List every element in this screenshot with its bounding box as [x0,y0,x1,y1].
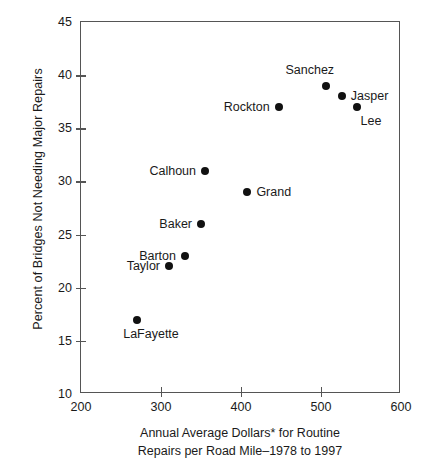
data-point [243,188,251,196]
data-point [353,103,361,111]
data-point [133,316,141,324]
x-tick-label: 500 [311,400,332,414]
scatter-plot-figure: Percent of Bridges Not Needing Major Rep… [0,0,424,475]
data-point [197,220,205,228]
y-tick-mark [76,288,86,289]
x-axis-title-line-1: Annual Average Dollars* for Routine [80,424,400,442]
y-tick-label: 10 [58,387,72,401]
plot-area: 1015202530354045 200300400500600 LaFayet… [80,21,400,393]
y-tick-label: 35 [58,121,72,135]
y-tick-label: 30 [58,174,72,188]
data-point-label: Baker [159,217,192,231]
x-axis-title-line-2: Repairs per Road Mile–1978 to 1997 [80,442,400,460]
y-tick-mark [76,75,86,76]
y-tick-label: 15 [58,334,72,348]
y-tick-label: 40 [58,68,72,82]
data-point [338,92,346,100]
y-tick-label: 25 [58,228,72,242]
x-tick-label: 300 [151,400,172,414]
x-tick-label: 600 [391,400,412,414]
data-point-label: Lee [361,114,382,128]
data-point-label: Sanchez [285,63,334,77]
x-tick-mark [161,387,162,397]
data-point-label: Jasper [351,89,389,103]
data-point [322,82,330,90]
data-point [165,262,173,270]
y-axis-title: Percent of Bridges Not Needing Major Rep… [31,13,45,385]
y-tick-label: 20 [58,281,72,295]
data-point [201,167,209,175]
data-point-label: Calhoun [149,164,196,178]
y-tick-mark [76,181,86,182]
x-axis-title: Annual Average Dollars* for Routine Repa… [80,424,400,460]
x-tick-mark [321,387,322,397]
y-tick-mark [76,235,86,236]
x-tick-label: 400 [231,400,252,414]
x-tick-mark [241,387,242,397]
y-tick-mark [76,341,86,342]
y-tick-mark [76,128,86,129]
data-point-label: LaFayette [123,327,179,341]
x-tick-label: 200 [71,400,92,414]
data-point-label: Barton [139,249,176,263]
data-point [275,103,283,111]
data-point-label: Grand [256,185,291,199]
y-tick-label: 45 [58,15,72,29]
data-point-label: Rockton [224,100,270,114]
data-point [181,252,189,260]
